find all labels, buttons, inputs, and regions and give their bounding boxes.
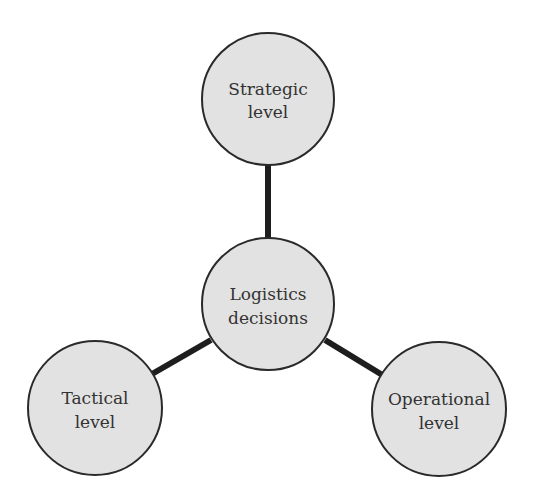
node-label-line2: level bbox=[75, 412, 116, 432]
node-strategic-level: Strategic level bbox=[202, 33, 334, 165]
node-label-line1: Operational bbox=[388, 389, 490, 409]
node-operational-level: Operational level bbox=[372, 342, 506, 476]
node-tactical-level: Tactical level bbox=[28, 341, 162, 475]
node-logistics-decisions: Logistics decisions bbox=[202, 238, 334, 370]
node-label-line1: Logistics bbox=[229, 284, 306, 304]
edge-center-to-operational bbox=[325, 340, 384, 376]
node-label-line2: level bbox=[248, 102, 289, 122]
edge-center-to-tactical bbox=[152, 340, 211, 374]
logistics-decisions-diagram: Strategic level Logistics decisions Tact… bbox=[0, 0, 535, 501]
node-label-line1: Tactical bbox=[61, 388, 128, 408]
node-label-line2: level bbox=[419, 413, 460, 433]
node-label-line1: Strategic bbox=[228, 79, 307, 99]
node-label-line2: decisions bbox=[228, 308, 308, 328]
